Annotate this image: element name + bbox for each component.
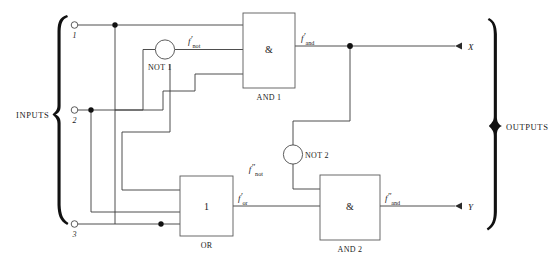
and2-gate-symbol: &: [346, 201, 354, 212]
signal-f-and-2: f″and: [385, 191, 401, 206]
signal-f-and-2-sub: and: [391, 199, 401, 206]
signal-f-and-1-sub: and: [305, 39, 315, 46]
input-label-3: 3: [72, 230, 77, 239]
junction-in3-tap: [158, 221, 163, 226]
signal-f-or-sub: or: [242, 199, 247, 206]
inputs-label: INPUTS: [16, 110, 49, 120]
not2-gate-circle: [283, 145, 302, 164]
not2-gate-label: NOT 2: [305, 151, 329, 160]
output-label-x: X: [467, 42, 474, 52]
output-arrow-x: [455, 43, 462, 50]
or-gate-label: OR: [201, 241, 213, 250]
output-label-y: Y: [468, 202, 474, 212]
wire-x-feedback-to-not2: [293, 46, 350, 146]
outputs-label: OUTPUTS: [506, 122, 548, 132]
junction-x-feedback: [347, 43, 353, 49]
signal-f-not-1-sub: not: [192, 42, 200, 49]
inputs-brace: [53, 15, 69, 225]
wire-staircase-to-and1-bottom: [115, 74, 243, 110]
wire-in2-to-not1: [143, 50, 155, 111]
signal-f-and-1: f′and: [301, 31, 315, 46]
signal-f-not-2-sub: not: [255, 170, 263, 177]
and1-gate-label: AND 1: [257, 93, 282, 102]
outputs-brace: [487, 18, 502, 231]
input-terminal-3[interactable]: [71, 221, 78, 228]
wire-in2-branch-down-or: [91, 110, 180, 212]
junction-in2-tap: [88, 107, 93, 112]
output-arrow-y: [455, 203, 462, 210]
not1-gate-circle: [155, 40, 174, 59]
input-label-2: 2: [73, 116, 77, 125]
wire-staircase-to-or-middle: [122, 64, 180, 190]
logic-circuit-diagram: INPUTS OUTPUTS NOT 1 f′not NOT 2 f″not: [0, 0, 552, 265]
and2-gate-label: AND 2: [338, 245, 363, 254]
signal-f-not-2: f″not: [249, 162, 263, 177]
junction-in1-tap: [112, 22, 117, 27]
and1-gate-symbol: &: [265, 44, 273, 55]
signal-f-not-1: f′not: [188, 34, 201, 49]
or-gate-symbol: 1: [204, 201, 209, 212]
signal-f-or: f′or: [238, 191, 248, 206]
input-label-1: 1: [73, 31, 77, 40]
input-terminal-1[interactable]: [71, 22, 78, 29]
input-terminal-2[interactable]: [71, 107, 78, 114]
wire-not2-to-and2: [293, 163, 320, 189]
not1-gate-label: NOT 1: [148, 63, 172, 72]
